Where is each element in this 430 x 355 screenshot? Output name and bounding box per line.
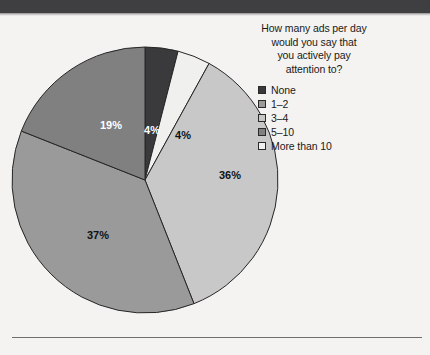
legend-swatch-icon: [258, 86, 266, 94]
pie-slice-label: 37%: [87, 229, 109, 241]
pie-slice-label: 19%: [100, 119, 122, 131]
legend-title: How many ads per day would you say that …: [216, 22, 412, 76]
pie-slice-label: 4%: [175, 129, 191, 141]
legend-swatch-icon: [258, 142, 266, 150]
scan-top-bar: [0, 0, 430, 13]
legend-item: More than 10: [258, 139, 412, 152]
legend-item: 5–10: [258, 125, 412, 138]
legend-item: 3–4: [258, 111, 412, 124]
pie-slice-label: 4%: [144, 124, 160, 136]
legend-swatch-icon: [258, 114, 266, 122]
legend-item: 1–2: [258, 97, 412, 110]
pie-chart-figure: 4%4%36%37%19% How many ads per day would…: [0, 0, 430, 355]
legend-item-label: More than 10: [271, 140, 332, 152]
legend-swatch-icon: [258, 128, 266, 136]
scan-top-bar-shadow: [0, 13, 430, 16]
legend-item-list: None1–23–45–10More than 10: [216, 83, 412, 152]
legend-item: None: [258, 83, 412, 96]
scan-bottom-rule: [12, 337, 422, 338]
legend-swatch-icon: [258, 100, 266, 108]
legend-item-label: None: [271, 84, 296, 96]
legend-item-label: 5–10: [271, 126, 294, 138]
legend-item-label: 1–2: [271, 98, 288, 110]
legend: How many ads per day would you say that …: [216, 22, 412, 153]
legend-item-label: 3–4: [271, 112, 288, 124]
pie-slice-label: 36%: [219, 169, 241, 181]
